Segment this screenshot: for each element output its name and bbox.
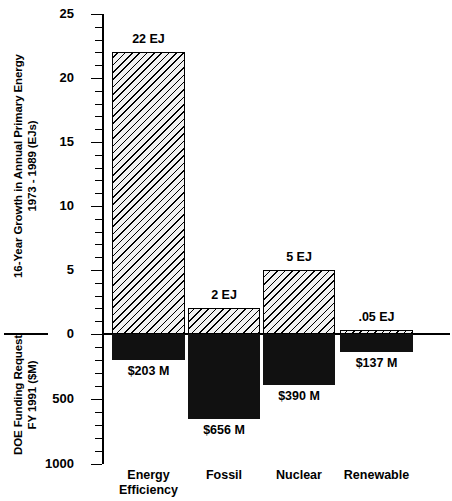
value-label-funding-nuclear: $390 M: [241, 390, 357, 403]
y-tick-upper-7: [95, 244, 102, 245]
y-tick-upper-22: [95, 52, 102, 53]
value-label-funding-renewable: $137 M: [318, 357, 435, 370]
y-tick-upper-1: [95, 321, 102, 322]
y-tick-upper-25: [91, 14, 102, 15]
y-tick-lower-600: [95, 412, 102, 413]
y-tick-upper-24: [95, 27, 102, 28]
y-tick-upper-5: [91, 270, 102, 271]
category-label-renewable: Renewable: [318, 468, 435, 483]
y-tick-upper-16: [95, 129, 102, 130]
y-tick-label-upper-0: 0: [14, 328, 74, 339]
y-tick-label-upper-20: 20: [14, 72, 74, 83]
value-label-growth-renewable: .05 EJ: [320, 311, 433, 324]
y-tick-upper-11: [95, 193, 102, 194]
y-tick-upper-14: [95, 155, 102, 156]
y-tick-upper-6: [95, 257, 102, 258]
bar-funding-energy-efficiency[interactable]: [112, 334, 185, 360]
y-tick-upper-13: [95, 168, 102, 169]
y-tick-upper-10: [91, 206, 102, 207]
y-tick-upper-15: [91, 142, 102, 143]
bar-funding-renewable[interactable]: [340, 334, 413, 352]
y-tick-lower-1000: [91, 464, 102, 465]
y-tick-label-upper-25: 25: [14, 8, 74, 19]
category-label-line: Efficiency: [90, 483, 207, 498]
y-tick-label-lower-1000: 1000: [14, 458, 74, 469]
y-tick-upper-20: [91, 78, 102, 79]
value-label-growth-nuclear: 5 EJ: [243, 251, 355, 264]
y-tick-lower-200: [95, 360, 102, 361]
y-tick-upper-18: [95, 104, 102, 105]
y-tick-upper-19: [95, 91, 102, 92]
y-tick-lower-700: [95, 425, 102, 426]
y-tick-upper-0: [91, 334, 102, 335]
y-tick-upper-21: [95, 65, 102, 66]
y-tick-upper-4: [95, 283, 102, 284]
y-tick-label-upper-10: 10: [14, 200, 74, 211]
chart-canvas: 16-Year Growth in Annual Primary Energy …: [0, 0, 452, 501]
y-tick-lower-800: [95, 438, 102, 439]
y-tick-label-upper-5: 5: [14, 264, 74, 275]
y-tick-lower-500: [91, 399, 102, 400]
y-tick-upper-17: [95, 116, 102, 117]
y-tick-lower-400: [95, 386, 102, 387]
value-label-funding-fossil: $656 M: [166, 424, 282, 437]
y-tick-lower-900: [95, 451, 102, 452]
y-tick-upper-3: [95, 296, 102, 297]
y-tick-label-lower-500: 500: [14, 393, 74, 404]
value-label-growth-energy-efficiency: 22 EJ: [92, 33, 205, 46]
y-tick-lower-100: [95, 347, 102, 348]
y-axis-spine: [102, 14, 104, 464]
category-label-line: Renewable: [318, 468, 435, 483]
bar-funding-fossil[interactable]: [188, 334, 260, 419]
bar-growth-nuclear[interactable]: [263, 270, 335, 334]
y-tick-upper-12: [95, 180, 102, 181]
bar-growth-fossil[interactable]: [188, 308, 260, 334]
y-tick-label-upper-15: 15: [14, 136, 74, 147]
y-tick-upper-9: [95, 219, 102, 220]
y-tick-upper-2: [95, 308, 102, 309]
y-tick-upper-8: [95, 232, 102, 233]
